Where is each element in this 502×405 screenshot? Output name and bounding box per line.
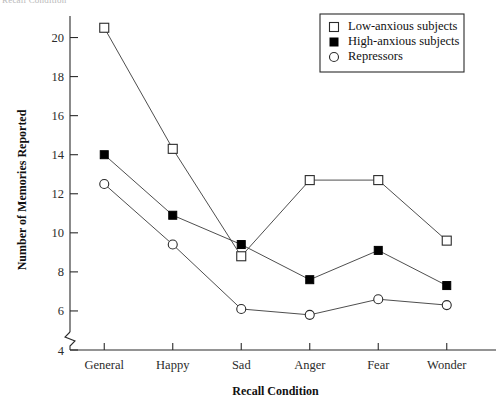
legend-label: Repressors	[348, 49, 403, 63]
line-chart-canvas: 468101214161820GeneralHappySadAngerFearW…	[0, 0, 502, 405]
x-tick-label: Wonder	[427, 358, 467, 372]
data-point-marker	[237, 304, 246, 313]
y-tick-label: 16	[52, 109, 65, 123]
y-tick-label: 10	[52, 226, 65, 240]
y-tick-label: 18	[52, 70, 65, 84]
legend-marker-filled-square	[330, 38, 338, 46]
y-tick-label: 6	[58, 304, 64, 318]
x-tick-label: Happy	[156, 358, 190, 372]
data-point-marker	[305, 176, 314, 185]
legend-marker-open-circle	[330, 53, 339, 62]
data-point-marker	[100, 151, 108, 159]
legend-label: Low-anxious subjects	[348, 19, 457, 33]
series-2	[100, 151, 451, 290]
y-axis-break-icon	[65, 332, 75, 350]
legend-label: High-anxious subjects	[348, 34, 460, 48]
data-point-marker	[442, 236, 451, 245]
data-point-marker	[100, 23, 109, 32]
y-tick-label: 4	[58, 344, 65, 358]
x-axis-title: Recall Condition	[232, 384, 319, 398]
data-point-marker	[443, 282, 451, 290]
x-tick-label: Fear	[367, 358, 390, 372]
y-tick-label: 14	[52, 148, 65, 162]
data-point-marker	[237, 252, 246, 261]
y-tick-label: 12	[52, 187, 65, 201]
y-tick-label: 8	[58, 265, 64, 279]
series-3	[100, 180, 452, 320]
x-tick-label: Anger	[294, 358, 326, 372]
data-point-marker	[374, 176, 383, 185]
legend-marker-open-square	[330, 23, 339, 32]
series-polyline	[104, 155, 447, 286]
data-point-marker	[237, 241, 245, 249]
chart-figure: Recall Condition 468101214161820GeneralH…	[0, 0, 502, 405]
data-point-marker	[306, 276, 314, 284]
data-point-marker	[305, 310, 314, 319]
x-tick-label: Sad	[232, 358, 252, 372]
y-axis-title: Number of Memories Reported	[15, 109, 29, 270]
y-tick-label: 20	[52, 31, 65, 45]
data-point-marker	[442, 301, 451, 310]
data-point-marker	[168, 144, 177, 153]
series-polyline	[104, 184, 447, 315]
data-point-marker	[100, 180, 109, 189]
cropped-header-text: Recall Condition	[2, 0, 66, 5]
data-point-marker	[169, 211, 177, 219]
legend: Low-anxious subjectsHigh-anxious subject…	[320, 14, 464, 72]
x-tick-label: General	[84, 358, 124, 372]
data-point-marker	[374, 246, 382, 254]
data-point-marker	[374, 295, 383, 304]
data-point-marker	[168, 240, 177, 249]
